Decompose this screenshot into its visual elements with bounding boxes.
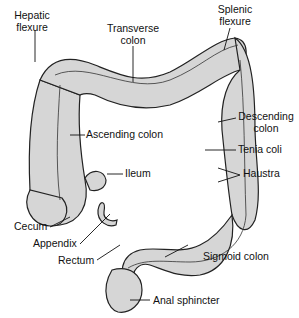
rectum-shape (106, 269, 142, 313)
label-anal-sphincter: Anal sphincter (153, 295, 220, 307)
label-line: Transverse (103, 23, 163, 35)
label-line: colon (103, 35, 163, 47)
label-transverse-colon: Transverse colon (103, 23, 163, 46)
label-line: Splenic (210, 4, 260, 16)
ileum-shape (85, 171, 106, 190)
colon-diagram: Hepatic flexure Transverse colon Splenic… (0, 0, 299, 318)
appendix-shape (98, 203, 117, 226)
label-ileum: Ileum (125, 168, 151, 180)
label-line: colon (236, 123, 296, 135)
label-hepatic-flexure: Hepatic flexure (2, 10, 62, 33)
label-sigmoid-colon: Sigmoid colon (203, 251, 269, 263)
label-rectum: Rectum (58, 255, 94, 267)
label-ascending-colon: Ascending colon (86, 129, 163, 141)
label-appendix: Appendix (33, 238, 77, 250)
label-haustra: Haustra (243, 168, 280, 180)
label-cecum: Cecum (14, 221, 47, 233)
label-line: Descending (236, 111, 296, 123)
label-line: flexure (210, 16, 260, 28)
label-splenic-flexure: Splenic flexure (210, 4, 260, 27)
label-line: flexure (2, 22, 62, 34)
label-descending-colon: Descending colon (236, 111, 296, 134)
label-tenia-coli: Tenia coli (238, 144, 282, 156)
colon-illustration (0, 0, 299, 318)
label-line: Hepatic (2, 10, 62, 22)
